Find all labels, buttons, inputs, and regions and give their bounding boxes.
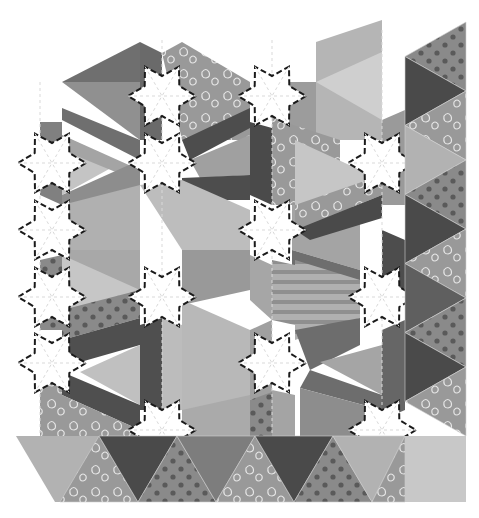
main-panel [18, 20, 416, 459]
quilt-illustration [0, 0, 479, 518]
right-border [405, 22, 466, 436]
corner-square [405, 436, 466, 502]
bottom-border [16, 436, 466, 502]
